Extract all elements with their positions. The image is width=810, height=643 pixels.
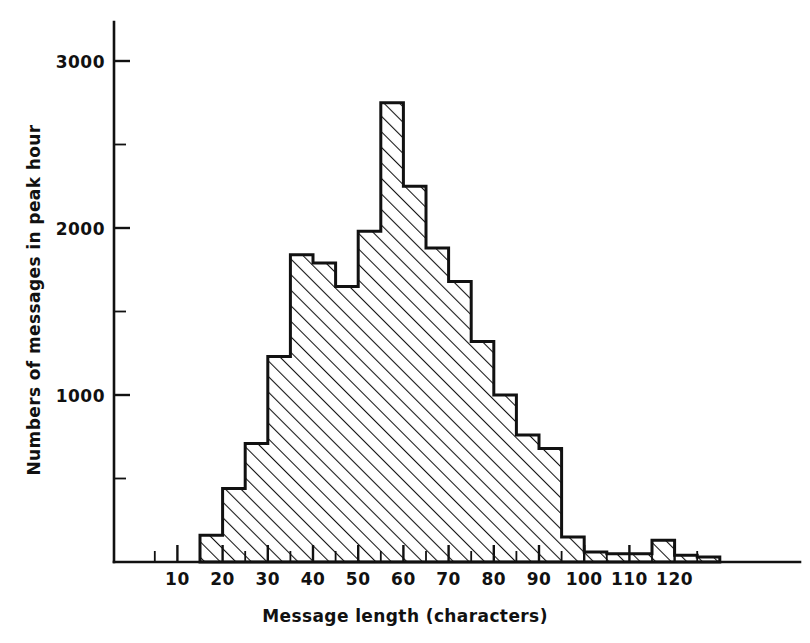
- y-axis-title: Numbers of messages in peak hour: [24, 124, 44, 475]
- histogram-chart: 100020003000 102030405060708090100110120…: [0, 0, 810, 643]
- y-axis-ticks: [114, 61, 130, 479]
- x-tick-label: 20: [210, 569, 235, 589]
- y-tick-label: 3000: [56, 52, 105, 72]
- x-tick-label: 50: [346, 569, 371, 589]
- x-axis-title: Message length (characters): [262, 606, 548, 626]
- plot-area: [200, 103, 720, 562]
- x-tick-label: 10: [165, 569, 190, 589]
- x-tick-label: 80: [481, 569, 506, 589]
- x-tick-label: 60: [391, 569, 416, 589]
- x-tick-label: 30: [255, 569, 280, 589]
- y-tick-label: 2000: [56, 219, 105, 239]
- x-tick-label: 120: [656, 569, 693, 589]
- x-axis-tick-labels: 102030405060708090100110120: [165, 569, 693, 589]
- x-tick-label: 70: [436, 569, 461, 589]
- y-axis-tick-labels: 100020003000: [56, 52, 105, 406]
- y-tick-label: 1000: [56, 386, 105, 406]
- y-axis: 100020003000: [56, 22, 130, 562]
- histogram-figure: 100020003000 102030405060708090100110120…: [0, 0, 810, 643]
- x-tick-label: 90: [527, 569, 552, 589]
- x-tick-label: 110: [611, 569, 648, 589]
- x-tick-label: 100: [566, 569, 603, 589]
- histogram-bars: [200, 103, 720, 562]
- x-tick-label: 40: [301, 569, 326, 589]
